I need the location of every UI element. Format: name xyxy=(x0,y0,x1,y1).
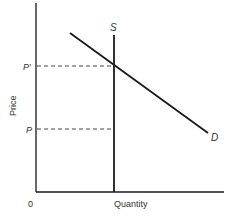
x-axis-label: Quantity xyxy=(114,199,148,209)
demand-curve xyxy=(70,33,208,133)
p-label: P xyxy=(26,125,32,135)
supply-demand-diagram: S D P′ P 0 Quantity Price xyxy=(0,0,238,219)
y-axis-label: Price xyxy=(8,95,18,116)
origin-label: 0 xyxy=(28,199,33,209)
p-prime-label: P′ xyxy=(23,62,31,72)
demand-label: D xyxy=(211,132,218,143)
supply-label: S xyxy=(110,22,117,33)
